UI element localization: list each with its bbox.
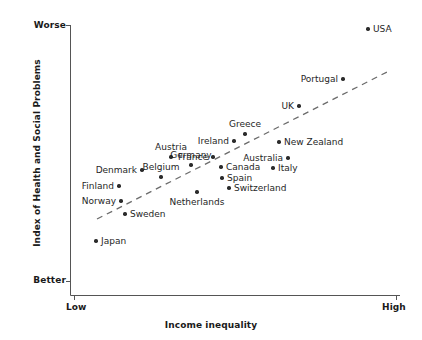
x-axis-left-tick-label: Low [66,302,87,312]
data-point-label: Finland [82,182,114,191]
data-point [117,184,120,187]
data-point [286,156,289,159]
data-point-label: Japan [101,237,126,246]
data-point-label: USA [373,25,392,34]
data-point-label: New Zealand [284,138,343,147]
data-point [297,104,300,107]
scatter-plot-figure: Worse Better Low High Income inequality … [0,0,422,340]
data-point-label: Portugal [301,75,338,84]
data-point-label: Canada [226,163,260,172]
data-point [195,190,198,193]
trendline-dashed [97,71,389,219]
plot-canvas [0,0,422,340]
data-point [220,176,223,179]
data-point [232,139,235,142]
data-point [366,27,369,30]
data-point-label: Switzerland [234,184,287,193]
data-point-label: UK [282,102,295,111]
data-point-label: Greece [229,120,261,129]
data-point-label: Italy [278,164,298,173]
data-point-label: Norway [82,197,116,206]
data-point [341,77,344,80]
data-point [189,163,192,166]
data-point [159,175,162,178]
data-point-label: Spain [227,174,252,183]
data-point [211,155,214,158]
data-point [271,166,274,169]
data-point-label: Germany [170,151,211,160]
data-point [94,239,97,242]
data-point [219,165,222,168]
data-point-label: Netherlands [170,198,225,207]
data-point [227,186,230,189]
x-axis-title: Income inequality [0,320,422,330]
data-point-label: Denmark [96,166,137,175]
data-point [123,212,126,215]
data-point [243,132,246,135]
data-point [119,199,122,202]
y-axis-title: Index of Health and Social Problems [32,23,42,283]
data-point-label: Sweden [130,210,166,219]
data-point-label: Ireland [198,137,229,146]
x-axis-right-tick-label: High [382,302,406,312]
trendline-group [97,71,389,219]
data-point [277,140,280,143]
data-point-label: Belgium [143,163,180,172]
